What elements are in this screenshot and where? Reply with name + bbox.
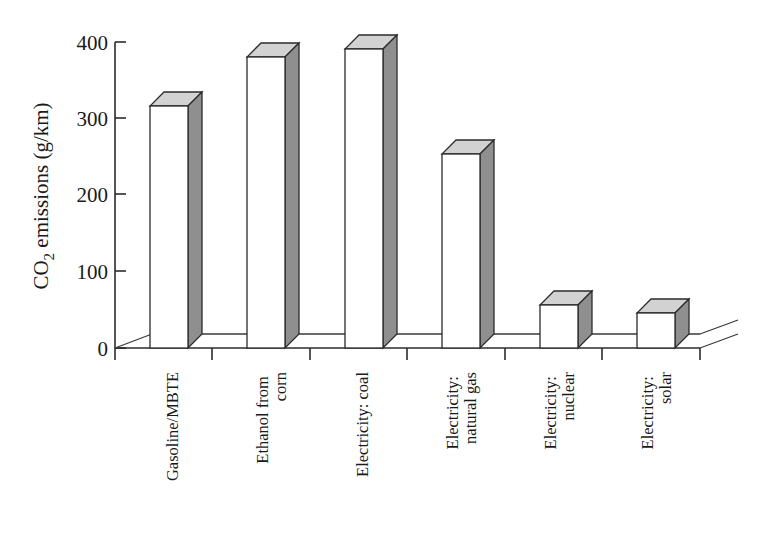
svg-text:Ethanol from corn: Ethanol from corn (253, 372, 290, 464)
y-tick-label-300: 300 (77, 107, 109, 131)
y-tick-label-0: 0 (98, 337, 109, 361)
y-tick-label-400: 400 (77, 31, 109, 55)
bar-electricity-natural-gas (442, 140, 494, 348)
y-tick-label-200: 200 (77, 183, 109, 207)
x-axis-category-labels: Gasoline/MBTE Ethanol from corn Electric… (163, 371, 675, 481)
co2-emissions-bar-chart: CO2 emissions (g/km) 400 300 200 100 0 (0, 0, 760, 547)
svg-text:Gasoline/MBTE: Gasoline/MBTE (163, 372, 182, 481)
x-label-ethanol-from-corn: Ethanol from corn (253, 372, 290, 464)
y-tick-label-100: 100 (77, 260, 109, 284)
y-axis-label: CO2 emissions (g/km) (29, 102, 57, 289)
chart-canvas: CO2 emissions (g/km) 400 300 200 100 0 (0, 0, 760, 547)
x-label-gasoline-mbte: Gasoline/MBTE (163, 372, 182, 481)
y-axis-label-sub: 2 (41, 253, 57, 261)
bar-gasoline-mbte (150, 92, 202, 348)
bar-ethanol-from-corn (247, 43, 299, 348)
bar-electricity-coal (345, 35, 397, 348)
svg-text:Electricity: nuclear: Electricity: nuclear (541, 372, 578, 450)
y-axis-ticks: 400 300 200 100 0 (77, 31, 127, 361)
y-axis-label-pre: CO (29, 260, 53, 289)
svg-text:Electricity: natural: Electricity: natural gas (443, 372, 480, 449)
x-label-electricity-nuclear: Electricity: nuclear (541, 372, 578, 450)
x-label-electricity-coal: Electricity: coal (353, 372, 372, 477)
bar-electricity-solar (637, 299, 689, 348)
bar-electricity-nuclear (540, 291, 592, 348)
x-axis-ticks (115, 348, 700, 360)
x-label-electricity-solar: Electricity: solar (638, 371, 675, 449)
y-axis-label-post: emissions (g/km) (29, 102, 53, 253)
svg-text:Electricity: coal: Electricity: coal (353, 372, 372, 477)
x-label-electricity-natural-gas: Electricity: natural gas (443, 372, 480, 449)
svg-text:CO2 emissions (g/km): CO2 emissions (g/km) (29, 102, 57, 289)
svg-text:Electricity: solar: Electricity: solar (638, 371, 675, 449)
